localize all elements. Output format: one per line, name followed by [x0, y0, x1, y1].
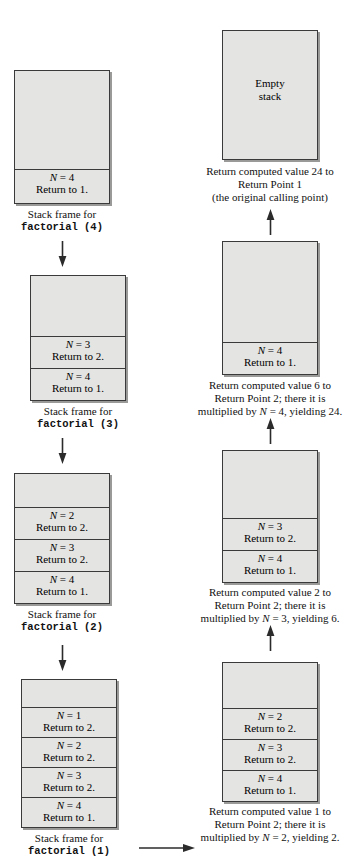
n-symbol: N: [50, 171, 57, 183]
stack-cell-return: Return to 2.: [22, 721, 116, 733]
stack-cell: N = 4 Return to 1.: [223, 550, 317, 582]
caption-line-3-pre: multiplied by: [201, 612, 263, 624]
caption-line-3-post: = 3, yielding 6.: [270, 612, 340, 624]
caption-line-3-post: = 2, yielding 2.: [270, 831, 340, 843]
stack-cell-n: N = 1: [22, 709, 116, 721]
n-symbol: N: [258, 344, 265, 356]
stack-cell-n: N = 4: [22, 799, 116, 811]
arrow-down-icon: [58, 241, 67, 267]
n-symbol: N: [258, 772, 265, 784]
stack-frame-return-1: N = 2 Return to 2. N = 3 Return to 2. N …: [222, 662, 318, 802]
stack-cell: N = 4 Return to 1.: [15, 571, 109, 603]
stack-frame-factorial-4: N = 4 Return to 1.: [14, 70, 110, 204]
stack-frame-return-2: N = 3 Return to 2. N = 4 Return to 1.: [222, 450, 318, 583]
caption-factorial-2: Stack frame for factorial (2): [0, 608, 124, 634]
arrow-right-icon: [139, 843, 195, 853]
arrow-up-icon: [266, 418, 275, 444]
stack-cell-n: N = 4: [223, 772, 317, 784]
stack-cell-return: Return to 2.: [223, 722, 317, 734]
stack-cell-n: N = 3: [31, 338, 125, 350]
caption-line-1: Return computed value 2 to: [194, 586, 346, 599]
caption-line-1: Stack frame for: [0, 208, 124, 221]
caption-line-1: Stack frame for: [16, 405, 140, 418]
stack-cell: N = 1 Return to 2.: [22, 707, 116, 737]
stack-cell-n: N = 3: [223, 741, 317, 753]
stack-cell-n: N = 4: [15, 573, 109, 585]
n-symbol: N: [262, 612, 269, 624]
caption-return-6: Return computed value 6 to Return Point …: [194, 379, 346, 419]
n-symbol: N: [57, 769, 64, 781]
arrow-up-icon: [266, 625, 275, 651]
stack-cell-return: Return to 2.: [31, 350, 125, 362]
caption-line-1: Return computed value 24 to: [194, 165, 346, 178]
stack-cell-n: N = 2: [15, 509, 109, 521]
diagram-canvas: N = 4 Return to 1. Stack frame for facto…: [0, 0, 348, 868]
stack-cell-n: N = 2: [223, 710, 317, 722]
stack-cell-n: N = 4: [15, 171, 109, 183]
caption-line-1: Return computed value 6 to: [194, 379, 346, 392]
stack-cell: N = 3 Return to 2.: [223, 739, 317, 770]
caption-line-2: factorial (1): [7, 845, 131, 858]
stack-free-space: [15, 71, 109, 169]
stack-free-space: [223, 451, 317, 518]
stack-cell-return: Return to 2.: [223, 532, 317, 544]
stack-cell: N = 4 Return to 1.: [223, 342, 317, 374]
stack-frame-factorial-2: N = 2 Return to 2. N = 3 Return to 2. N …: [14, 473, 110, 604]
stack-cell: N = 3 Return to 2.: [31, 336, 125, 368]
n-symbol: N: [57, 739, 64, 751]
caption-line-2: Return Point 2; there it is: [194, 392, 346, 405]
n-symbol: N: [258, 552, 265, 564]
stack-cell-return: Return to 1.: [223, 784, 317, 796]
caption-line-2: Return Point 2; there it is: [194, 818, 346, 831]
caption-factorial-1: Stack frame for factorial (1): [7, 832, 131, 858]
stack-frame-factorial-1: N = 1 Return to 2. N = 2 Return to 2. N …: [21, 679, 117, 828]
stack-cell-n: N = 2: [22, 739, 116, 751]
caption-line-2: factorial (2): [0, 621, 124, 634]
stack-cell: N = 2 Return to 2.: [223, 708, 317, 739]
stack-cell: N = 3 Return to 2.: [15, 539, 109, 571]
n-symbol: N: [258, 710, 265, 722]
stack-cell-n: N = 4: [31, 370, 125, 382]
n-symbol: N: [50, 541, 57, 553]
stack-free-space: [15, 474, 109, 507]
caption-line-3: multiplied by N = 4, yielding 24.: [194, 405, 346, 418]
caption-line-3: multiplied by N = 3, yielding 6.: [194, 612, 346, 625]
stack-cell-return: Return to 2.: [223, 753, 317, 765]
caption-return-2: Return computed value 2 to Return Point …: [194, 586, 346, 626]
n-symbol: N: [50, 509, 57, 521]
caption-line-3: multiplied by N = 2, yielding 2.: [194, 831, 346, 844]
caption-factorial-3: Stack frame for factorial (3): [16, 405, 140, 431]
n-symbol: N: [57, 799, 64, 811]
stack-cell: N = 4 Return to 1.: [22, 797, 116, 827]
stack-cell-return: Return to 1.: [31, 382, 125, 394]
caption-return-24: Return computed value 24 to Return Point…: [194, 165, 346, 205]
stack-cell-return: Return to 2.: [22, 751, 116, 763]
n-symbol: N: [262, 831, 269, 843]
n-symbol: N: [57, 709, 64, 721]
empty-label-line-1: Empty: [223, 77, 317, 90]
caption-line-2: Return Point 1: [194, 178, 346, 191]
caption-factorial-4: Stack frame for factorial (4): [0, 208, 124, 234]
stack-frame-empty: Empty stack: [222, 30, 318, 160]
stack-free-space: [223, 242, 317, 342]
stack-cell-return: Return to 1.: [15, 585, 109, 597]
stack-free-space: [31, 276, 125, 336]
stack-cell: N = 4 Return to 1.: [31, 368, 125, 400]
caption-line-3: (the original calling point): [194, 191, 346, 204]
caption-line-2: Return Point 2; there it is: [194, 599, 346, 612]
empty-label-line-2: stack: [223, 90, 317, 103]
stack-cell-return: Return to 2.: [15, 553, 109, 565]
stack-cell: N = 3 Return to 2.: [22, 767, 116, 797]
caption-line-2: factorial (4): [0, 221, 124, 234]
n-symbol: N: [258, 520, 265, 532]
stack-cell-n: N = 3: [15, 541, 109, 553]
caption-line-3-pre: multiplied by: [201, 831, 263, 843]
stack-cell: N = 3 Return to 2.: [223, 518, 317, 550]
stack-cell: N = 4 Return to 1.: [15, 169, 109, 203]
n-symbol: N: [66, 338, 73, 350]
stack-cell-n: N = 4: [223, 552, 317, 564]
stack-cell-return: Return to 1.: [223, 564, 317, 576]
stack-cell-return: Return to 2.: [22, 781, 116, 793]
stack-cell-return: Return to 1.: [22, 811, 116, 823]
arrow-down-icon: [58, 645, 67, 671]
